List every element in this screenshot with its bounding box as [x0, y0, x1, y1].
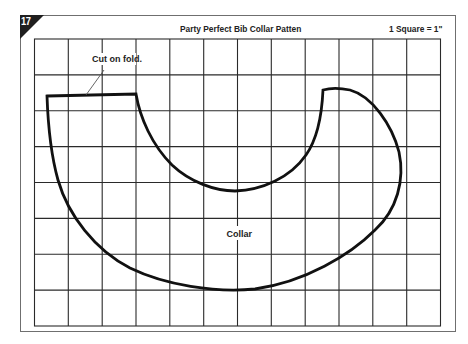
pattern-grid-diagram: Cut on fold. Collar: [0, 0, 468, 344]
collar-outline: [47, 89, 401, 291]
fold-leader-line: [86, 70, 104, 95]
pattern-figure: 17 Party Perfect Bib Collar Patten 1 Squ…: [0, 0, 468, 344]
collar-label: Collar: [227, 229, 253, 239]
fold-label: Cut on fold.: [92, 54, 142, 64]
